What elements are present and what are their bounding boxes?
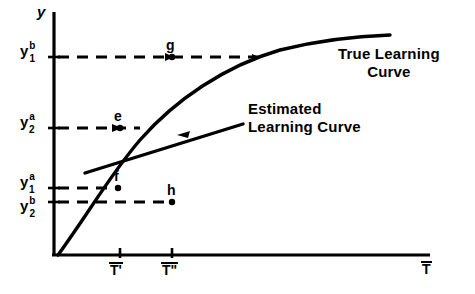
y-tick-sup: a [29, 111, 35, 122]
y-tick-sub: 2 [29, 124, 35, 135]
y-tick-label-y1b: yb1 [20, 42, 40, 62]
x-axis-label: T [422, 261, 431, 276]
estimated-learning-curve-label: Estimated Learning Curve [248, 100, 361, 135]
data-point-e [117, 125, 123, 131]
estimated-curve-leader-arrow [177, 131, 190, 138]
y-tick-base: y [20, 113, 28, 130]
y-axis-label: y [37, 4, 45, 19]
data-point-g [169, 54, 175, 60]
data-point-h [169, 199, 175, 205]
y-tick-base: y [20, 197, 28, 214]
point-label-g: g [166, 38, 175, 52]
x-tick-label-2-text: T" [162, 262, 177, 277]
y-tick-base: y [20, 173, 28, 190]
y-tick-sub: 2 [29, 208, 35, 219]
y-tick-label-y2b: yb2 [20, 197, 40, 217]
y-tick-label-y1a: ya1 [20, 173, 39, 193]
y-tick-sup: b [29, 195, 35, 206]
x-tick-label-1-text: T' [110, 262, 122, 277]
estimated-curve-label-line-1: Estimated [248, 100, 361, 118]
estimated-learning-curve [85, 124, 243, 173]
y-tick-sup: b [29, 40, 35, 51]
estimated-curve-label-line-2: Learning Curve [248, 118, 361, 136]
point-label-h: h [167, 183, 176, 197]
data-point-f [115, 185, 121, 191]
point-label-e: e [114, 109, 122, 123]
point-label-f: f [114, 169, 119, 183]
true-curve-label-line-2: Curve [338, 63, 440, 81]
y-tick-base: y [20, 42, 28, 59]
y-tick-label-y2a: ya2 [20, 113, 39, 133]
x-tick-label-2: T" [162, 262, 177, 277]
y-tick-sub: 1 [29, 53, 35, 64]
y-tick-sub: 1 [29, 184, 35, 195]
true-learning-curve-label: True Learning Curve [338, 45, 440, 80]
x-axis-label-text: T [422, 261, 431, 276]
y-tick-sup: a [29, 171, 35, 182]
true-curve-label-line-1: True Learning [338, 45, 440, 63]
learning-curve-figure: y T yb1 ya2 ya1 yb2 T' T" g e f h True L… [0, 0, 475, 294]
x-tick-label-1: T' [110, 262, 122, 277]
